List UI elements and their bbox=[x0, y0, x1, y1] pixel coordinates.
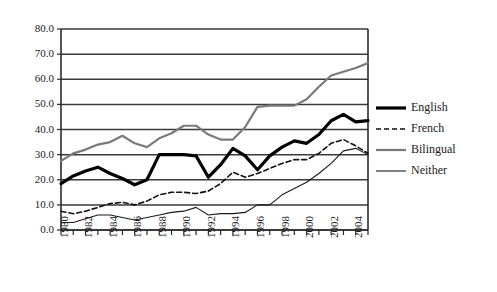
y-axis-tick-label: 80.0 bbox=[35, 22, 55, 34]
y-axis-tick-label: 70.0 bbox=[35, 47, 55, 59]
y-axis-tick-label: 20.0 bbox=[35, 173, 55, 185]
legend: EnglishFrenchBilingualNeither bbox=[376, 100, 456, 177]
x-axis-tick-label: 1994 bbox=[229, 216, 241, 239]
y-axis-tick-label: 10.0 bbox=[35, 198, 55, 210]
x-axis-tick-label: 2004 bbox=[352, 216, 364, 239]
y-axis-tick-label: 30.0 bbox=[35, 148, 55, 160]
y-axis-tick-label: 40.0 bbox=[35, 123, 55, 135]
chart-canvas: 0.010.020.030.040.050.060.070.080.019801… bbox=[0, 0, 497, 292]
legend-label-french: French bbox=[411, 121, 444, 135]
legend-label-english: English bbox=[411, 100, 448, 114]
x-axis-tick-label: 2002 bbox=[328, 216, 340, 238]
y-axis-tick-label: 0.0 bbox=[40, 223, 54, 235]
legend-label-bilingual: Bilingual bbox=[411, 142, 456, 156]
x-axis-tick-label: 1988 bbox=[156, 216, 168, 239]
x-axis-tick-label: 1996 bbox=[254, 216, 266, 239]
x-axis-tick-label: 1998 bbox=[279, 216, 291, 239]
x-axis-tick-label: 1990 bbox=[180, 216, 192, 239]
legend-label-neither: Neither bbox=[411, 163, 447, 177]
x-axis-tick-label: 2000 bbox=[303, 216, 315, 239]
line-chart: 0.010.020.030.040.050.060.070.080.019801… bbox=[0, 0, 497, 292]
y-axis-tick-label: 60.0 bbox=[35, 72, 55, 84]
x-axis-tick-label: 1980 bbox=[58, 216, 70, 239]
y-axis-tick-label: 50.0 bbox=[35, 97, 55, 109]
x-axis-tick-label: 1984 bbox=[107, 216, 119, 239]
x-axis-tick-label: 1992 bbox=[205, 216, 217, 238]
